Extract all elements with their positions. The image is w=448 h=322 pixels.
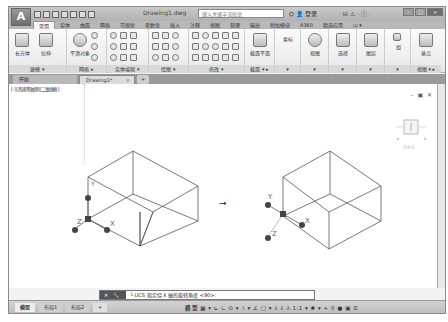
erase-icon[interactable]	[192, 54, 199, 61]
status-tool-icons[interactable]: ▦ ▾ ⊾ ∟ ⊙ ▾ ∖ ▾ ∠ ▢ ▾ ⅄ ⅄ ⅄ 1:1 ▾ ✱ ▾ + …	[200, 305, 358, 311]
offset-icon[interactable]	[232, 32, 239, 39]
drawing-canvas[interactable]: [-][西南等轴测][二维线框] – ▣ ✕ 未命名	[9, 84, 439, 288]
panel-label-modify[interactable]: 修改 ▾	[189, 65, 244, 73]
panel-label-view[interactable]: 视图 ▾ ▸	[411, 65, 441, 73]
tab-more[interactable]: ▭ ▾	[348, 21, 367, 29]
line-icon[interactable]	[152, 32, 159, 39]
layers-icon[interactable]	[364, 33, 378, 47]
save-icon[interactable]	[52, 11, 59, 18]
status-toolbar[interactable]: 模型 ▦ ▾ ⊾ ∟ ⊙ ▾ ∖ ▾ ∠ ▢ ▾ ⅄ ⅄ ⅄ 1:1 ▾ ✱ ▾…	[185, 304, 359, 312]
extract-edges-icon[interactable]	[130, 43, 137, 50]
group-label[interactable]: 组	[388, 43, 408, 50]
visual-style-icon[interactable]	[308, 33, 322, 47]
visual-style-label[interactable]: 视图	[305, 49, 325, 56]
align-icon[interactable]	[202, 54, 209, 61]
rotate-icon[interactable]	[212, 43, 219, 50]
redo-icon[interactable]	[88, 11, 95, 18]
tab-featured-apps[interactable]: 精选应用	[318, 21, 348, 29]
tab-insert[interactable]: 插入	[165, 21, 185, 29]
extrude-icon[interactable]	[39, 33, 53, 47]
tab-solid[interactable]: 实体	[55, 21, 75, 29]
spline-icon[interactable]	[152, 43, 159, 50]
vertical-scrollbar[interactable]	[437, 84, 445, 288]
selection-label[interactable]: 选择	[333, 49, 353, 56]
panel-label-visual-style[interactable]: ▾	[301, 65, 328, 73]
tab-start[interactable]: 开始	[13, 75, 77, 84]
trim-icon[interactable]	[192, 32, 199, 39]
base-point-label[interactable]: 基点	[416, 49, 436, 56]
panel-label-layers[interactable]: ▾	[357, 65, 384, 73]
dropdown-icon[interactable]	[140, 32, 147, 39]
smooth-object-icon[interactable]	[73, 33, 87, 47]
rectangle-icon[interactable]	[162, 54, 169, 61]
arc-icon[interactable]	[172, 32, 179, 39]
tab-a360[interactable]: A360	[295, 21, 318, 29]
circle-icon[interactable]	[172, 43, 179, 50]
dropdown-icon[interactable]	[182, 43, 189, 50]
tab-output[interactable]: 输出	[245, 21, 265, 29]
tab-mesh[interactable]: 网格	[95, 21, 115, 29]
panel-label-section[interactable]: 截面 ▾ ▸	[245, 65, 274, 73]
add-layout-button[interactable]: +	[93, 303, 107, 312]
box-icon[interactable]	[15, 33, 29, 47]
section-plane-icon[interactable]	[253, 33, 267, 47]
polyline-icon[interactable]	[162, 32, 169, 39]
panel-label-selection[interactable]: ▾	[329, 65, 356, 73]
3d-mirror-icon[interactable]	[222, 32, 229, 39]
application-menu-button[interactable]: A	[11, 8, 31, 26]
open-icon[interactable]	[43, 11, 50, 18]
box-button-label[interactable]: 长方体	[12, 49, 32, 56]
panel-label-groups[interactable]: ▾	[385, 65, 410, 73]
tab-manage[interactable]: 管理	[225, 21, 245, 29]
panel-label-mesh[interactable]: 网格 ▸	[67, 65, 106, 73]
3d-scale-icon[interactable]	[222, 54, 229, 61]
copy-icon[interactable]	[232, 54, 239, 61]
fillet-icon[interactable]	[192, 43, 199, 50]
subtract-icon[interactable]	[110, 43, 117, 50]
3d-rotate-icon[interactable]	[202, 43, 209, 50]
login-button[interactable]: ⛭ 👤 登录	[289, 9, 317, 18]
shell-icon[interactable]	[120, 32, 127, 39]
tab-parametric[interactable]: 参数化	[140, 21, 165, 29]
intersect-icon[interactable]	[110, 54, 117, 61]
command-line[interactable]: ✕ 🔧 └ UCS 指定绕 X 轴的旋转角度 <90>:	[99, 290, 315, 300]
new-icon[interactable]	[34, 11, 41, 18]
dropdown-icon[interactable]	[182, 32, 189, 39]
dropdown-icon[interactable]	[182, 54, 189, 61]
stretch-icon[interactable]	[232, 43, 239, 50]
selection-icon[interactable]	[336, 33, 350, 47]
close-button[interactable]: ×	[427, 8, 443, 16]
minimize-button[interactable]: –	[403, 8, 414, 16]
slice-icon[interactable]	[120, 43, 127, 50]
panel-label-draw[interactable]: 绘图 ▾	[149, 65, 188, 73]
mesh-tool-icon[interactable]	[91, 43, 98, 50]
array-icon[interactable]	[212, 54, 219, 61]
3d-polyline-icon[interactable]	[162, 43, 169, 50]
tab-layout1[interactable]: 布局1	[39, 303, 62, 312]
tab-annotate[interactable]: 注释	[185, 21, 205, 29]
3d-move-icon[interactable]	[202, 32, 209, 39]
coordinates-label[interactable]: 坐标	[278, 35, 298, 42]
tab-drawing1[interactable]: Drawing1* ×	[79, 75, 135, 84]
mesh-tool-icon[interactable]	[91, 54, 98, 61]
model-space-button[interactable]: 模型	[185, 305, 198, 311]
panel-label-coordinates[interactable]: ▾	[275, 65, 300, 73]
ellipse-icon[interactable]	[152, 54, 159, 61]
tab-model[interactable]: 模型	[15, 303, 35, 312]
move-icon[interactable]	[212, 32, 219, 39]
tab-addins[interactable]: 附加模块	[265, 21, 295, 29]
title-tools[interactable]: · ⊟ ⚠ · ⓘ ·	[339, 9, 371, 18]
tab-view[interactable]: 视图	[205, 21, 225, 29]
union-icon[interactable]	[110, 32, 117, 39]
mesh-tool-icon[interactable]	[91, 32, 98, 39]
extrude-button-label[interactable]: 拉伸	[36, 49, 56, 56]
thicken-icon[interactable]	[120, 54, 127, 61]
tab-visualize[interactable]: 可视化	[115, 21, 140, 29]
save-as-icon[interactable]	[61, 11, 68, 18]
dropdown-icon[interactable]	[140, 43, 147, 50]
print-icon[interactable]	[70, 11, 77, 18]
section-plane-label[interactable]: 截面平面	[250, 49, 270, 56]
layers-label[interactable]: 图层	[361, 49, 381, 56]
scale-icon[interactable]	[222, 43, 229, 50]
customize-icon[interactable]: 🔧	[113, 292, 119, 298]
